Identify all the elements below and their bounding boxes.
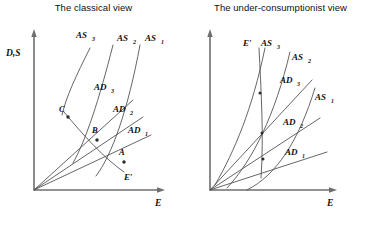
y-axis-arrowhead xyxy=(31,29,36,37)
x-axis-label-under-consumptionist: E xyxy=(326,198,333,208)
as-label-3: AS xyxy=(75,30,87,40)
ad-label-3-group: AD 3 xyxy=(93,82,114,94)
ad-ray-1 xyxy=(34,135,151,190)
as-label-2-sub: 2 xyxy=(307,58,311,64)
ad-label-1-group: AD 1 xyxy=(127,125,148,137)
as-curve-3 xyxy=(62,48,90,115)
as-label-1-sub: 1 xyxy=(161,39,164,45)
ad-label-2-group: AD 2 xyxy=(112,104,133,116)
as-curve-2 xyxy=(227,52,290,188)
economics-figure: The classical view xyxy=(0,0,375,228)
ad-label-3: AD xyxy=(279,75,293,85)
equilibrium-point-B xyxy=(95,138,98,141)
ad-label-3-sub: 3 xyxy=(110,88,114,94)
y-axis-arrowhead xyxy=(207,29,212,37)
as-curves-classical xyxy=(62,45,140,176)
equilibrium-point-A xyxy=(122,160,125,163)
under-consumptionist-view-plot: E E′ AS 3 AS 2 AS 1 AD 3 AD xyxy=(187,0,374,228)
as-label-1-group: AS 1 xyxy=(314,92,334,104)
intersection-point-1 xyxy=(262,158,265,161)
ad-label-2-sub: 2 xyxy=(299,123,303,129)
panel-classical-view: The classical view xyxy=(0,0,187,228)
equilibrium-label-B: B xyxy=(91,125,98,135)
as-label-2-group: AS 2 xyxy=(116,33,136,45)
as-label-2: AS xyxy=(116,33,128,43)
ad-rays-under-consumptionist xyxy=(210,80,327,190)
as-label-1: AS xyxy=(144,33,156,43)
as-label-3-sub: 3 xyxy=(91,36,95,42)
ad-label-2: AD xyxy=(112,104,126,114)
ad-label-1-sub: 1 xyxy=(145,131,148,137)
equilibrium-label-A: A xyxy=(118,147,125,157)
ad-label-3-sub: 3 xyxy=(296,81,300,87)
x-axis-arrowhead xyxy=(157,187,165,192)
eprime-label-under-consumptionist: E′ xyxy=(242,38,252,48)
as-curve-3 xyxy=(215,48,265,185)
as-label-2: AS xyxy=(291,52,303,62)
ad-label-2: AD xyxy=(282,117,296,127)
ad-label-2-sub: 2 xyxy=(129,110,133,116)
ad-label-1-sub: 1 xyxy=(302,153,305,159)
ad-label-1: AD xyxy=(284,147,298,157)
equilibrium-point-C xyxy=(66,115,69,118)
as-label-1-sub: 1 xyxy=(331,98,334,104)
as-curve-2 xyxy=(73,45,113,163)
as-label-2-sub: 2 xyxy=(132,39,136,45)
eprime-label-classical: E′ xyxy=(123,172,133,182)
as-label-3-group: AS 3 xyxy=(75,30,95,42)
ad-label-1-group: AD 1 xyxy=(284,147,305,159)
as-label-3-group: AS 3 xyxy=(260,38,280,50)
intersection-point-2 xyxy=(261,132,264,135)
ad-label-3-group: AD 3 xyxy=(279,75,300,87)
ad-rays-classical xyxy=(34,100,151,190)
ad-label-3: AD xyxy=(93,82,107,92)
classical-view-plot: D,S E AS 3 AS 2 AS 1 AD 3 AD 2 xyxy=(0,0,187,228)
x-axis-label-classical: E xyxy=(154,198,161,208)
x-axis-arrowhead xyxy=(329,187,337,192)
as-label-2-group: AS 2 xyxy=(291,52,311,64)
equilibrium-label-C: C xyxy=(59,104,65,114)
as-label-1-group: AS 1 xyxy=(144,33,164,45)
y-axis-label-classical: D,S xyxy=(5,48,21,58)
axes-classical xyxy=(31,29,165,193)
panel-under-consumptionist-view: The under-consumptionist view xyxy=(187,0,374,228)
as-label-3-sub: 3 xyxy=(276,44,280,50)
as-label-1: AS xyxy=(314,92,326,102)
as-label-3: AS xyxy=(260,38,272,48)
equilibrium-points-classical xyxy=(66,115,125,163)
intersection-point-3 xyxy=(259,92,262,95)
ad-label-1: AD xyxy=(127,125,141,135)
ad-label-2-group: AD 2 xyxy=(282,117,303,129)
